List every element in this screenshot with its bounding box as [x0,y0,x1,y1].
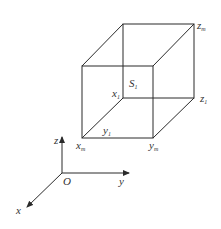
cuboid [82,24,194,138]
y-axis-label: y [118,175,124,187]
label-S1: S1 [129,77,138,90]
x-axis-arrow [27,173,62,207]
label-z1: z1 [199,92,207,105]
label-y1: y1 [102,124,111,137]
edge-top-right [153,24,194,66]
edge-bottom-right [153,98,194,138]
label-zm: zm [196,19,206,32]
edge-top-left [82,24,123,66]
box-diagram: O y z x S1 x1 y1 z1 xm ym zm [0,0,221,229]
x-axis-label: x [15,204,21,216]
label-ym: ym [148,139,159,152]
label-xm: xm [75,139,86,152]
label-x1: x1 [111,87,120,100]
origin-label: O [63,175,71,187]
z-axis-label: z [53,134,59,146]
